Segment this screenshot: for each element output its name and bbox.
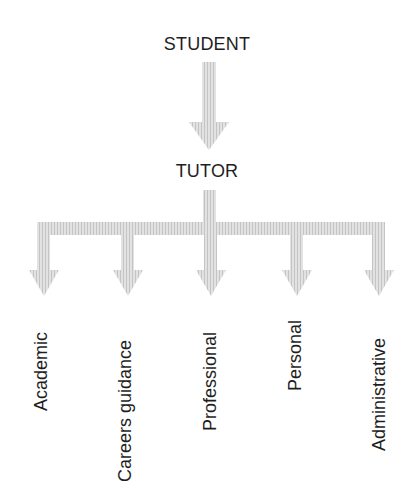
node-student: STUDENT bbox=[0, 34, 414, 55]
node-tutor: TUTOR bbox=[0, 161, 414, 182]
leaf-administrative: Administrative bbox=[369, 338, 390, 451]
leaf-personal: Personal bbox=[285, 320, 306, 391]
leaf-professional: Professional bbox=[200, 332, 221, 431]
leaf-careers-guidance: Careers guidance bbox=[115, 340, 136, 482]
arrow-student-to-tutor bbox=[189, 62, 229, 150]
leaf-academic: Academic bbox=[31, 332, 52, 411]
